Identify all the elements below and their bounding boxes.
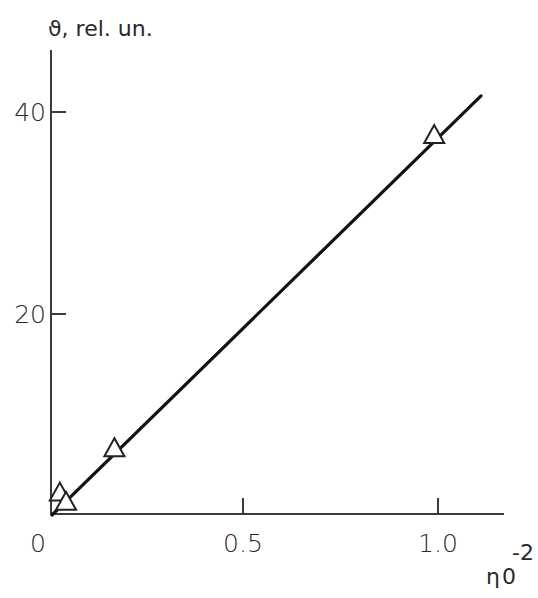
x-tick-label: 0.5 (223, 529, 263, 558)
y-tick-label: 20 (14, 300, 46, 329)
data-markers (50, 125, 444, 510)
x-tick-label: 1.0 (418, 529, 458, 558)
svg-text:0: 0 (502, 564, 516, 589)
y-axis-title: ϑ, rel. un. (48, 16, 153, 41)
chart: ϑ, rel. un. 2040 00.51.0 η 0 -2 (0, 0, 538, 598)
x-ticks: 00.51.0 (30, 498, 458, 558)
x-axis-title: η 0 -2 (486, 540, 534, 589)
y-tick-label: 40 (14, 98, 46, 127)
svg-text:-2: -2 (512, 540, 534, 565)
svg-text:η: η (486, 564, 500, 589)
y-ticks: 2040 (14, 98, 66, 329)
x-tick-label: 0 (30, 529, 46, 558)
